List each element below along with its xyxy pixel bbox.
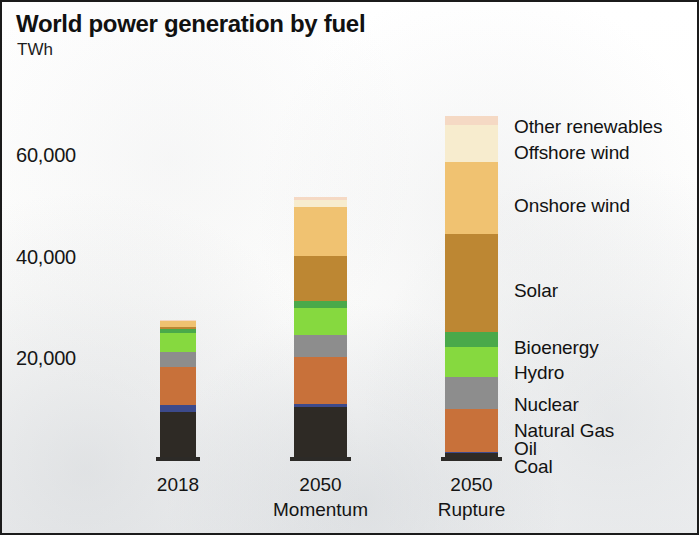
bar-segment-coal[interactable] (160, 412, 196, 457)
legend-label-other-renewables: Other renewables (514, 116, 662, 138)
bar-base-2018 (156, 457, 200, 461)
bar-segment-bioenergy[interactable] (294, 301, 347, 308)
bar-segment-bioenergy[interactable] (445, 332, 498, 347)
bar-segment-other-renewables[interactable] (445, 116, 498, 124)
legend-label-nuclear: Nuclear (514, 394, 579, 416)
stacked-bar-2050-momentum[interactable] (294, 197, 347, 457)
legend-label-solar: Solar (514, 280, 558, 302)
chart-title: World power generation by fuel (16, 10, 365, 38)
bar-segment-natural-gas[interactable] (445, 409, 498, 453)
x-axis-label-2018: 2018 (108, 474, 248, 496)
bar-segment-coal[interactable] (294, 407, 347, 457)
bar-segment-nuclear[interactable] (160, 352, 196, 367)
y-axis-tick-60000: 60,000 (16, 144, 76, 167)
y-axis-unit-label: TWh (17, 40, 53, 60)
bar-segment-hydro[interactable] (294, 308, 347, 335)
bar-segment-offshore-wind[interactable] (445, 125, 498, 162)
bar-segment-hydro[interactable] (160, 333, 196, 352)
x-axis-label-2050-momentum: 2050Momentum (251, 474, 391, 521)
bar-base-2050-rupture (441, 457, 502, 461)
x-axis-label-line1: 2018 (157, 474, 199, 495)
x-axis-label-line1: 2050 (299, 474, 341, 495)
legend-label-bioenergy: Bioenergy (514, 337, 599, 359)
bar-segment-solar[interactable] (445, 234, 498, 332)
bar-segment-solar[interactable] (294, 256, 347, 302)
bar-segment-onshore-wind[interactable] (294, 207, 347, 255)
x-axis-label-line2: Momentum (251, 499, 391, 521)
legend-label-offshore-wind: Offshore wind (514, 142, 630, 164)
y-axis-tick-20000: 20,000 (16, 347, 76, 370)
chart-figure: World power generation by fuel TWh 60,00… (0, 0, 699, 535)
bar-base-2050-momentum (290, 457, 351, 461)
bar-segment-offshore-wind[interactable] (294, 200, 347, 208)
stacked-bar-2050-rupture[interactable] (445, 116, 498, 457)
y-axis-tick-40000: 40,000 (16, 246, 76, 269)
bar-segment-oil[interactable] (160, 405, 196, 412)
paper-texture (2, 2, 697, 533)
bar-segment-nuclear[interactable] (294, 335, 347, 357)
bar-segment-nuclear[interactable] (445, 377, 498, 409)
legend-label-hydro: Hydro (514, 362, 564, 384)
x-axis-label-2050-rupture: 2050Rupture (402, 474, 542, 521)
legend-label-onshore-wind: Onshore wind (514, 195, 630, 217)
stacked-bar-2018[interactable] (160, 320, 196, 457)
bar-segment-natural-gas[interactable] (160, 367, 196, 405)
legend-label-coal: Coal (514, 456, 553, 478)
bar-segment-onshore-wind[interactable] (445, 162, 498, 234)
x-axis-label-line1: 2050 (450, 474, 492, 495)
bar-segment-hydro[interactable] (445, 347, 498, 377)
bar-segment-natural-gas[interactable] (294, 357, 347, 404)
x-axis-label-line2: Rupture (402, 499, 542, 521)
